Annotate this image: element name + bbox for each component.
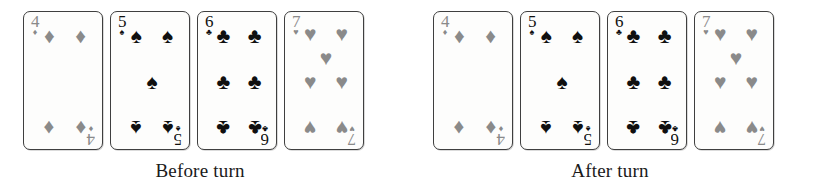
diamond-pip-icon: ♦ bbox=[44, 26, 55, 47]
card-corner-index-bottom-right: 7♥ bbox=[345, 124, 359, 148]
card-group-after: 4♦♦♦♦♦4♦5♠♠♠♠♠♠5♠6♣♣♣♣♣♣♣6♣7♥♥♥♥♥♥♥♥7♥ A… bbox=[410, 0, 810, 194]
playing-card[interactable]: 5♠♠♠♠♠♠5♠ bbox=[520, 11, 600, 150]
playing-card[interactable]: 4♦♦♦♦♦4♦ bbox=[433, 11, 513, 150]
playing-card[interactable]: 6♣♣♣♣♣♣♣6♣ bbox=[607, 11, 687, 150]
heart-pip-icon: ♥ bbox=[320, 47, 332, 68]
club-pip-icon: ♣ bbox=[216, 26, 230, 47]
playing-card[interactable]: 5♠♠♠♠♠♠5♠ bbox=[110, 11, 190, 150]
club-pip-icon: ♣ bbox=[658, 71, 672, 92]
heart-pip-icon: ♥ bbox=[304, 23, 316, 44]
heart-pip-icon: ♥ bbox=[730, 47, 742, 68]
card-hand: 4♦♦♦♦♦4♦5♠♠♠♠♠♠5♠6♣♣♣♣♣♣♣6♣7♥♥♥♥♥♥♥♥7♥ bbox=[433, 11, 774, 150]
playing-card[interactable]: 7♥♥♥♥♥♥♥♥7♥ bbox=[694, 11, 774, 150]
card-corner-index-bottom-right: 6♣ bbox=[258, 124, 272, 148]
spade-pip-icon: ♠ bbox=[556, 71, 567, 92]
spade-pip-icon: ♠ bbox=[131, 116, 142, 137]
spade-pip-icon: ♠ bbox=[162, 26, 173, 47]
card-group-before: 4♦♦♦♦♦4♦5♠♠♠♠♠♠5♠6♣♣♣♣♣♣♣6♣7♥♥♥♥♥♥♥♥7♥ B… bbox=[0, 0, 400, 194]
card-corner-index-bottom-right: 4♦ bbox=[494, 124, 508, 148]
heart-pip-icon: ♥ bbox=[745, 71, 757, 92]
diamond-pip-icon: ♦ bbox=[75, 26, 86, 47]
heart-pip-icon: ♥ bbox=[304, 71, 316, 92]
heart-pip-icon: ♥ bbox=[304, 116, 316, 137]
card-hand: 4♦♦♦♦♦4♦5♠♠♠♠♠♠5♠6♣♣♣♣♣♣♣6♣7♥♥♥♥♥♥♥♥7♥ bbox=[23, 11, 364, 150]
diamond-pip-icon: ♦ bbox=[454, 116, 465, 137]
club-pip-icon: ♣ bbox=[626, 116, 640, 137]
diamond-pip-icon: ♦ bbox=[454, 26, 465, 47]
heart-pip-icon: ♥ bbox=[745, 23, 757, 44]
club-pip-icon: ♣ bbox=[658, 26, 672, 47]
playing-card[interactable]: 7♥♥♥♥♥♥♥♥7♥ bbox=[284, 11, 364, 150]
card-corner-index-bottom-right: 6♣ bbox=[668, 124, 682, 148]
heart-pip-icon: ♥ bbox=[335, 23, 347, 44]
caption-before: Before turn bbox=[0, 160, 400, 182]
playing-card[interactable]: 4♦♦♦♦♦4♦ bbox=[23, 11, 103, 150]
club-pip-icon: ♣ bbox=[216, 71, 230, 92]
club-pip-icon: ♣ bbox=[626, 71, 640, 92]
card-corner-index-bottom-right: 5♠ bbox=[581, 124, 595, 148]
club-pip-icon: ♣ bbox=[626, 26, 640, 47]
heart-pip-icon: ♥ bbox=[714, 23, 726, 44]
spade-pip-icon: ♠ bbox=[541, 26, 552, 47]
diamond-pip-icon: ♦ bbox=[485, 26, 496, 47]
spade-pip-icon: ♠ bbox=[146, 71, 157, 92]
heart-pip-icon: ♥ bbox=[714, 71, 726, 92]
heart-pip-icon: ♥ bbox=[714, 116, 726, 137]
playing-cards-figure: 4♦♦♦♦♦4♦5♠♠♠♠♠♠5♠6♣♣♣♣♣♣♣6♣7♥♥♥♥♥♥♥♥7♥ B… bbox=[0, 0, 820, 194]
club-pip-icon: ♣ bbox=[248, 26, 262, 47]
card-corner-index-bottom-right: 5♠ bbox=[171, 124, 185, 148]
club-pip-icon: ♣ bbox=[248, 71, 262, 92]
spade-pip-icon: ♠ bbox=[541, 116, 552, 137]
caption-after: After turn bbox=[410, 160, 810, 182]
card-corner-index-bottom-right: 7♥ bbox=[755, 124, 769, 148]
diamond-pip-icon: ♦ bbox=[44, 116, 55, 137]
card-corner-index-bottom-right: 4♦ bbox=[84, 124, 98, 148]
club-pip-icon: ♣ bbox=[216, 116, 230, 137]
heart-pip-icon: ♥ bbox=[335, 71, 347, 92]
playing-card[interactable]: 6♣♣♣♣♣♣♣6♣ bbox=[197, 11, 277, 150]
spade-pip-icon: ♠ bbox=[572, 26, 583, 47]
spade-pip-icon: ♠ bbox=[131, 26, 142, 47]
